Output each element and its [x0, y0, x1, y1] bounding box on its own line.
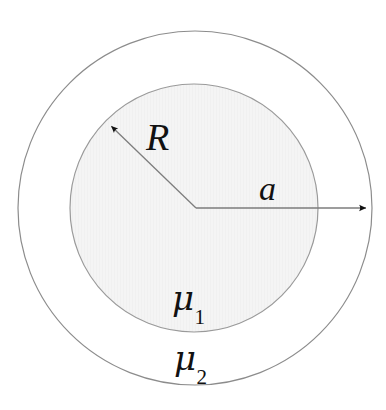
- permeability-mu2-label: μ2: [174, 341, 207, 382]
- radius-R-label: R: [146, 118, 169, 156]
- figure-container: R a μ1 μ2: [0, 0, 386, 410]
- mu2-subscript: 2: [197, 365, 208, 389]
- mu-glyph-1: μ: [172, 278, 194, 318]
- mu1-subscript: 1: [195, 305, 206, 329]
- mu-glyph-2: μ: [174, 338, 196, 378]
- permeability-mu1-label: μ1: [172, 281, 205, 322]
- radius-a-label: a: [259, 172, 276, 206]
